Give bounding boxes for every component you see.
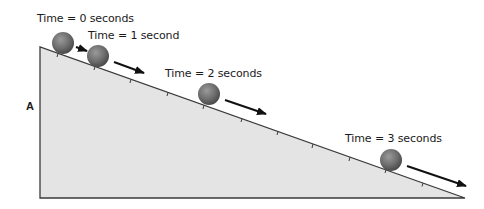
- motion-arrow-3: [225, 100, 266, 114]
- ball-time-1: [87, 45, 109, 67]
- inclined-plane-diagram: A Time = 0 seconds Time = 1 second Time …: [0, 0, 484, 209]
- ball-time-3: [380, 149, 402, 171]
- side-label-a: A: [26, 100, 34, 112]
- label-time-2: Time = 2 seconds: [165, 67, 262, 80]
- motion-arrow-2: [114, 62, 144, 73]
- label-time-0: Time = 0 seconds: [37, 12, 134, 25]
- label-time-1: Time = 1 second: [88, 29, 179, 42]
- label-time-3: Time = 3 seconds: [345, 132, 442, 145]
- diagram-canvas: [0, 0, 484, 209]
- motion-arrow-1: [76, 47, 87, 51]
- ball-time-2: [198, 83, 220, 105]
- ball-time-0: [52, 32, 74, 54]
